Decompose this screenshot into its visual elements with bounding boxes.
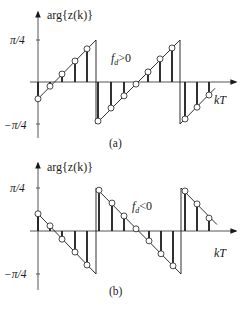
panel-a-tick-pi4: π/4 xyxy=(10,34,25,46)
sample-marker xyxy=(121,213,127,219)
panel-a-plot xyxy=(30,12,236,138)
panel-a-caption: (a) xyxy=(109,137,122,150)
sample-marker xyxy=(72,58,78,64)
sample-marker xyxy=(145,69,151,75)
sample-marker xyxy=(121,93,127,99)
sample-marker xyxy=(169,45,175,51)
panel-a-condition-label: fd>0 xyxy=(111,51,131,67)
sample-marker xyxy=(146,238,152,244)
sample-marker xyxy=(35,96,41,102)
sample-marker xyxy=(84,262,90,268)
sample-marker xyxy=(109,200,115,206)
sawtooth-phase-figure: arg{z(k)} π/4 −π/4 kT fd>0 (a) arg{z(k)}… xyxy=(0,0,248,311)
panel-b-y-axis-label: arg{z(k)} xyxy=(47,160,93,174)
panel-a-x-axis-label: kT xyxy=(214,93,227,107)
panel-b-plot xyxy=(30,163,236,290)
sample-marker xyxy=(133,226,139,232)
sample-marker xyxy=(72,249,78,255)
sample-marker xyxy=(59,236,65,242)
sample-marker xyxy=(133,81,139,87)
condition-rel: >0 xyxy=(118,51,131,65)
panel-b-tick-minus-pi4: −π/4 xyxy=(4,268,27,280)
sample-marker xyxy=(84,46,90,52)
sample-marker xyxy=(95,118,101,124)
sample-marker xyxy=(182,188,188,194)
panel-b-condition-label: fd<0 xyxy=(132,199,152,215)
panel-a: arg{z(k)} π/4 −π/4 kT fd>0 (a) xyxy=(4,8,236,150)
sample-marker xyxy=(59,71,65,77)
sample-marker xyxy=(47,83,53,89)
panel-b-caption: (b) xyxy=(109,285,123,298)
sample-marker xyxy=(157,56,163,62)
panel-b: arg{z(k)} π/4 −π/4 kT fd<0 (b) xyxy=(4,160,236,298)
sample-marker xyxy=(47,223,53,229)
sample-marker xyxy=(182,116,188,122)
panel-a-y-axis-label: arg{z(k)} xyxy=(47,8,93,22)
sample-marker xyxy=(108,105,114,111)
panel-b-x-axis-label: kT xyxy=(214,246,227,260)
sample-marker xyxy=(206,92,212,98)
sample-marker xyxy=(96,187,102,193)
sample-marker xyxy=(206,215,212,221)
condition-rel: <0 xyxy=(139,199,152,213)
sample-marker xyxy=(194,201,200,207)
panel-b-tick-pi4: π/4 xyxy=(10,182,25,194)
sample-marker xyxy=(35,211,41,217)
sample-marker xyxy=(194,104,200,110)
sample-marker xyxy=(170,263,176,269)
panel-a-tick-minus-pi4: −π/4 xyxy=(4,119,27,131)
sample-marker xyxy=(158,251,164,257)
